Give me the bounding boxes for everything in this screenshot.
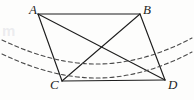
diagonal-bc [62, 14, 140, 81]
vertex-label-d: D [168, 78, 177, 91]
geometry-figure: m A B C D [0, 0, 194, 100]
vertex-label-c: C [50, 78, 59, 91]
dashed-arc-group [2, 38, 192, 78]
edge-dc [62, 80, 165, 81]
dashed-arc-lower [2, 52, 192, 78]
edge-bd [140, 14, 165, 80]
vertex-label-a: A [29, 3, 37, 16]
vertex-label-b: B [143, 3, 151, 16]
